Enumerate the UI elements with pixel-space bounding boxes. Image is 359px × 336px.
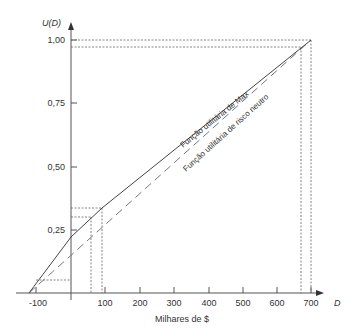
x-tick-500: 500 — [235, 298, 250, 308]
x-tick-200: 200 — [132, 298, 147, 308]
x-axis-label: Milhares de $ — [155, 314, 209, 324]
y-tick-050: 0,50 — [47, 162, 65, 172]
x-tick-400: 400 — [201, 298, 216, 308]
x-tick-300: 300 — [166, 298, 181, 308]
y-axis-arrow-icon — [68, 22, 74, 30]
x-axis-arrow-icon — [316, 290, 324, 296]
utility-chart: 0,25 0,50 0,75 1,00 U(D) -100 100 200 30… — [0, 0, 359, 336]
x-tick-600: 600 — [269, 298, 284, 308]
x-axis-end-label: D — [334, 298, 341, 308]
y-tick-100: 1,00 — [47, 35, 65, 45]
y-axis-label: U(D) — [42, 18, 61, 28]
guide-lines — [36, 40, 311, 293]
x-tick-100: 100 — [97, 298, 112, 308]
y-tick-025: 0,25 — [47, 225, 65, 235]
y-tick-075: 0,75 — [47, 98, 65, 108]
x-tick-m100: -100 — [29, 298, 47, 308]
x-tick-700: 700 — [303, 298, 318, 308]
